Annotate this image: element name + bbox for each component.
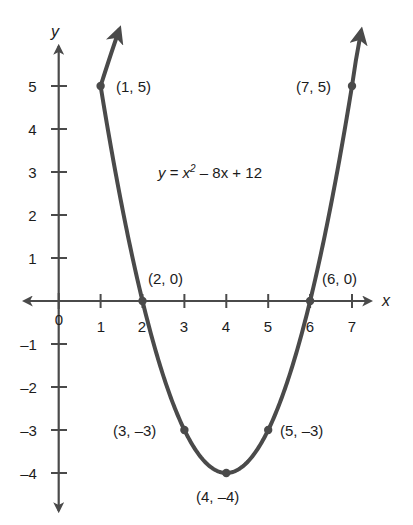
parabola-curve — [101, 31, 361, 474]
x-axis-label: x — [382, 293, 390, 309]
graph-figure: y x 5 4 3 2 1 –1 –2 –3 –4 0 1 2 3 4 5 6 … — [0, 0, 413, 525]
data-point — [264, 426, 272, 434]
data-point — [180, 426, 188, 434]
y-tick-label-5: 5 — [20, 79, 45, 94]
data-point — [222, 469, 230, 477]
y-tick-label-3: 3 — [20, 165, 45, 180]
x-tick-label-4: 4 — [219, 319, 233, 334]
y-tick-label-neg4: –4 — [12, 466, 45, 481]
point-label-4-neg4: (4, –4) — [196, 489, 239, 504]
data-point — [348, 82, 356, 90]
y-tick-label-neg2: –2 — [12, 380, 45, 395]
point-label-2-0: (2, 0) — [148, 271, 183, 286]
point-label-7-5: (7, 5) — [296, 79, 331, 94]
equation-lhs: y — [158, 164, 166, 181]
equation-variable: x — [183, 164, 191, 181]
x-tick-label-5: 5 — [261, 319, 275, 334]
x-tick-label-7: 7 — [345, 319, 359, 334]
y-axis-label: y — [51, 24, 59, 40]
point-label-6-0: (6, 0) — [322, 271, 357, 286]
x-tick-label-0: 0 — [52, 312, 66, 327]
y-axis — [51, 46, 67, 511]
y-tick-label-neg1: –1 — [12, 337, 45, 352]
y-tick-label-1: 1 — [20, 251, 45, 266]
equation-label: y = x2 – 8x + 12 — [158, 165, 262, 180]
x-tick-label-6: 6 — [303, 319, 317, 334]
x-tick-label-2: 2 — [135, 319, 149, 334]
x-axis — [24, 293, 371, 309]
x-tick-label-3: 3 — [177, 319, 191, 334]
data-point — [96, 82, 104, 90]
y-tick-label-4: 4 — [20, 122, 45, 137]
parabola-plot — [0, 0, 413, 525]
y-tick-label-neg3: –3 — [12, 423, 45, 438]
point-label-1-5: (1, 5) — [116, 79, 151, 94]
x-tick-label-1: 1 — [94, 319, 108, 334]
data-point — [306, 297, 314, 305]
data-point — [138, 297, 146, 305]
point-label-5-neg3: (5, –3) — [280, 423, 323, 438]
equation-rest: – 8x + 12 — [200, 164, 262, 181]
y-tick-label-2: 2 — [20, 208, 45, 223]
point-label-3-neg3: (3, –3) — [113, 423, 156, 438]
